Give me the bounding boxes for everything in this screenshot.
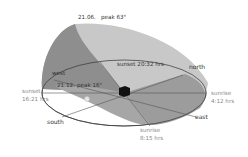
direction-west: west	[52, 70, 65, 77]
summer-sunset-label: sunset 20:32 hrs	[117, 61, 164, 68]
direction-north: north	[189, 64, 205, 71]
house-cube-icon	[119, 86, 130, 97]
direction-east: east	[195, 114, 208, 121]
sun-path-svg	[0, 0, 248, 157]
winter-sunrise-label: sunrise	[140, 127, 160, 134]
winter-peak-label: peak 16°	[77, 82, 102, 89]
direction-south: south	[47, 119, 64, 126]
summer-sunrise-time: 4:12 hrs	[211, 98, 234, 105]
summer-date-label: 21.06.	[78, 14, 96, 21]
winter-date-label: 21.12.	[57, 82, 75, 89]
winter-sunrise-time: 8:15 hrs	[140, 135, 163, 142]
sun-path-diagram: 21.06. peak 63° sunset 20:32 hrs north w…	[0, 0, 248, 157]
summer-sunrise-label: sunrise	[211, 90, 231, 97]
summer-peak-label: peak 63°	[101, 14, 126, 21]
sun-marker-icon	[85, 97, 90, 102]
winter-sunset-label: sunset	[22, 88, 41, 95]
winter-sunset-time: 16:21 hrs	[22, 96, 49, 103]
